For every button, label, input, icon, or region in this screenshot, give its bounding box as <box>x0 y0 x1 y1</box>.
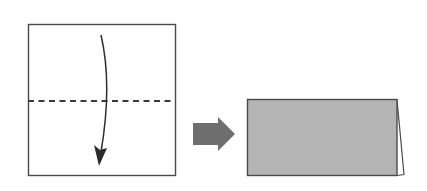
step-1-square-paper <box>28 25 176 176</box>
back-layer-edge <box>397 100 404 176</box>
folded-paper-front <box>248 100 398 176</box>
step-2-folded-rectangle <box>248 100 405 176</box>
next-step-arrow-icon <box>193 117 235 151</box>
origami-fold-diagram: Fold paper in half along the dashed line… <box>0 0 427 191</box>
